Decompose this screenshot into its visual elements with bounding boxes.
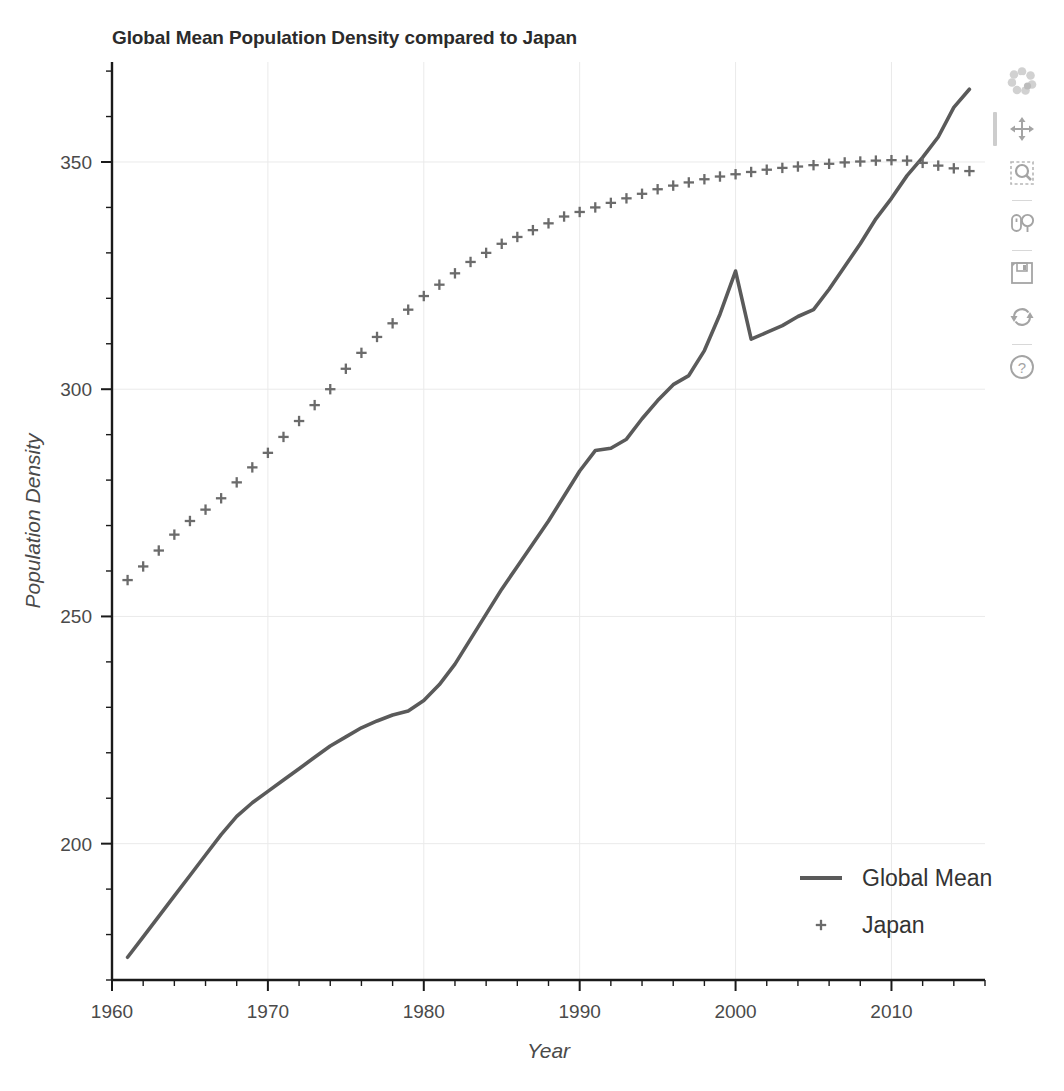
data-series (122, 89, 974, 957)
plot-toolbar[interactable]: ? (996, 62, 1048, 392)
bokeh-logo-icon (1003, 62, 1041, 100)
x-tick-label: 1970 (247, 1001, 289, 1022)
x-tick-label: 1980 (403, 1001, 445, 1022)
tick-labels: 196019701980199020002010200250300350 (60, 152, 912, 1022)
toolbar-separator (1012, 200, 1032, 201)
x-tick-label: 2010 (870, 1001, 912, 1022)
help-tool-button[interactable]: ? (1003, 348, 1041, 386)
legend-item[interactable]: Global Mean (800, 865, 992, 891)
wheel-zoom-tool-button[interactable] (1003, 204, 1041, 242)
x-tick-label: 2000 (714, 1001, 756, 1022)
legend: Global MeanJapan (800, 865, 992, 938)
legend-item[interactable]: Japan (816, 912, 925, 938)
plot-canvas[interactable]: 196019701980199020002010200250300350 Yea… (0, 0, 1064, 1091)
toolbar-separator (1012, 344, 1032, 345)
y-tick-label: 200 (60, 834, 92, 855)
box-zoom-tool-button[interactable] (1003, 154, 1041, 192)
toolbar-separator (1012, 250, 1032, 251)
x-tick-label: 1960 (91, 1001, 133, 1022)
x-axis-title: Year (527, 1039, 571, 1062)
y-tick-label: 300 (60, 379, 92, 400)
y-tick-label: 250 (60, 606, 92, 627)
bokeh-plot: Global Mean Population Density compared … (0, 0, 1064, 1091)
y-tick-label: 350 (60, 152, 92, 173)
save-tool-button[interactable] (1003, 254, 1041, 292)
legend-label: Japan (862, 912, 925, 938)
y-axis-title: Population Density (21, 432, 44, 609)
x-tick-label: 1990 (559, 1001, 601, 1022)
pan-tool-button[interactable] (1003, 110, 1041, 148)
axis-titles: YearPopulation Density (21, 432, 571, 1062)
reset-tool-button[interactable] (1003, 298, 1041, 336)
svg-text:?: ? (1018, 359, 1026, 376)
legend-label: Global Mean (862, 865, 992, 891)
pan-tool-active-indicator (993, 112, 997, 146)
